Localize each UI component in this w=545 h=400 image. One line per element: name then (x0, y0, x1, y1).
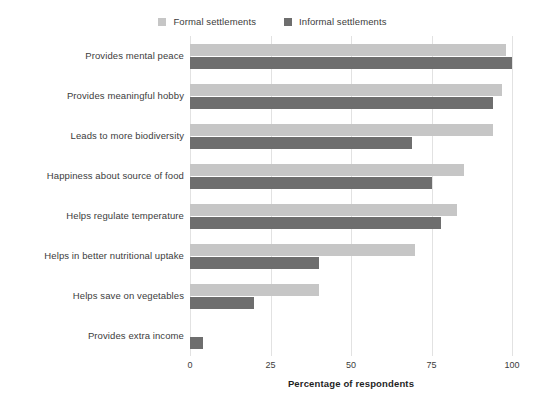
bar-group (190, 164, 512, 189)
bar-chart: Formal settlements Informal settlements … (0, 0, 545, 400)
y-axis-category-labels: Provides mental peaceProvides meaningful… (0, 36, 184, 356)
x-tick-label: 0 (187, 360, 192, 370)
bar-informal (190, 177, 432, 189)
category-label: Helps in better nutritional uptake (0, 250, 184, 261)
x-axis-title: Percentage of respondents (190, 378, 512, 389)
bar-informal (190, 57, 512, 69)
x-tick-label: 100 (504, 360, 519, 370)
legend-label: Informal settlements (299, 16, 387, 27)
x-axis-tick-labels: 0255075100 (190, 360, 512, 374)
bar-formal (190, 84, 502, 96)
plot-area (190, 36, 512, 356)
bar-informal (190, 337, 203, 349)
bar-informal (190, 257, 319, 269)
chart-legend: Formal settlements Informal settlements (0, 16, 545, 27)
bar-formal (190, 204, 457, 216)
bar-formal (190, 164, 464, 176)
bar-group (190, 124, 512, 149)
x-tick-label: 75 (426, 360, 436, 370)
bars-layer (190, 36, 512, 356)
bar-group (190, 84, 512, 109)
category-label: Provides mental peace (0, 50, 184, 61)
bar-informal (190, 137, 412, 149)
bar-group (190, 44, 512, 69)
category-label: Leads to more biodiversity (0, 130, 184, 141)
legend-swatch-icon (284, 18, 292, 26)
x-tick-label: 50 (346, 360, 356, 370)
bar-informal (190, 97, 493, 109)
bar-informal (190, 297, 254, 309)
x-tick-label: 25 (265, 360, 275, 370)
bar-formal (190, 124, 493, 136)
bar-informal (190, 217, 441, 229)
bar-group (190, 204, 512, 229)
category-label: Provides meaningful hobby (0, 90, 184, 101)
category-label: Provides extra income (0, 330, 184, 341)
bar-formal (190, 244, 415, 256)
category-label: Helps save on vegetables (0, 290, 184, 301)
legend-swatch-icon (158, 18, 166, 26)
category-label: Happiness about source of food (0, 170, 184, 181)
bar-group (190, 324, 512, 349)
bar-group (190, 244, 512, 269)
bar-group (190, 284, 512, 309)
gridline (512, 36, 513, 356)
legend-item-formal-settlements: Formal settlements (158, 16, 256, 27)
bar-formal (190, 44, 506, 56)
bar-formal (190, 284, 319, 296)
category-label: Helps regulate temperature (0, 210, 184, 221)
legend-label: Formal settlements (173, 16, 256, 27)
legend-item-informal-settlements: Informal settlements (284, 16, 387, 27)
